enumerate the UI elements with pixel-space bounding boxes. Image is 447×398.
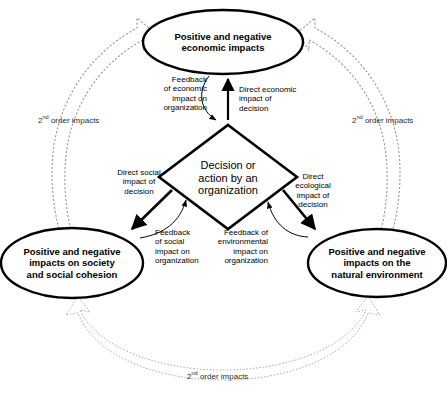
node-environment-line-1: Positive and negative bbox=[311, 246, 443, 258]
node-environment-label: Positive and negative impacts on the nat… bbox=[311, 242, 443, 284]
second-order-arrow-bottom bbox=[66, 296, 380, 380]
node-society-line-2: impacts on society bbox=[4, 257, 140, 269]
direct-ecological-line-3: impact of bbox=[285, 191, 341, 200]
direct-economic-line-2: impact of bbox=[239, 94, 311, 103]
direct-economic-line-3: decision bbox=[239, 104, 311, 113]
feedback-environmental-line-1: Feedback of bbox=[206, 228, 268, 237]
feedback-environmental-line-3: impact on bbox=[206, 247, 268, 256]
feedback-social-line-2: of social bbox=[155, 237, 207, 246]
second-order-bottom-text: order impacts bbox=[198, 372, 249, 381]
node-environment-line-2: impacts on the bbox=[311, 257, 443, 269]
node-decision-line-2: action by an bbox=[174, 172, 282, 185]
node-society-line-1: Positive and negative bbox=[4, 246, 140, 258]
node-decision-label: Decision or action by an organization bbox=[174, 157, 282, 199]
second-order-label-right: 2nd order impacts bbox=[352, 116, 413, 125]
feedback-economic-line-3: impact on bbox=[145, 94, 207, 103]
direct-ecological-line-4: decision bbox=[285, 200, 341, 209]
feedback-environmental-line-4: organization bbox=[206, 256, 268, 265]
node-society-line-3: and social cohesion bbox=[4, 269, 140, 281]
feedback-economic-line-1: Feedback bbox=[145, 75, 207, 84]
node-economic-label: Positive and negative economic impacts bbox=[143, 18, 303, 66]
edge-label-feedback-environmental: Feedback of environmental impact on orga… bbox=[206, 228, 268, 265]
direct-social-line-1: Direct social bbox=[106, 168, 172, 177]
node-decision-line-3: organization bbox=[174, 184, 282, 197]
node-society-label: Positive and negative impacts on society… bbox=[4, 242, 140, 284]
feedback-economic-line-4: organization bbox=[145, 103, 207, 112]
direct-social-line-3: decision bbox=[106, 187, 172, 196]
direct-social-line-2: impact of bbox=[106, 177, 172, 186]
edge-label-direct-ecological: Direct ecological impact of decision bbox=[285, 172, 341, 209]
edge-label-direct-social: Direct social impact of decision bbox=[106, 168, 172, 196]
direct-ecological-line-2: ecological bbox=[285, 181, 341, 190]
direct-ecological-line-1: Direct bbox=[285, 172, 341, 181]
node-environment-line-3: natural environment bbox=[311, 269, 443, 281]
feedback-social-line-1: Feedback bbox=[155, 228, 207, 237]
feedback-economic-line-2: of economic bbox=[145, 84, 207, 93]
second-order-label-left: 2nd order impacts bbox=[38, 116, 99, 125]
edge-label-feedback-economic: Feedback of economic impact on organizat… bbox=[145, 75, 207, 112]
impact-feedback-diagram: Positive and negative economic impacts P… bbox=[0, 0, 447, 398]
second-order-left-text: order impacts bbox=[49, 116, 100, 125]
feedback-environmental-line-2: environmental bbox=[206, 237, 268, 246]
feedback-social-line-4: organization bbox=[155, 256, 207, 265]
second-order-right-text: order impacts bbox=[363, 116, 414, 125]
feedback-social-line-3: impact on bbox=[155, 247, 207, 256]
node-decision-line-1: Decision or bbox=[174, 159, 282, 172]
node-economic-line-2: economic impacts bbox=[143, 42, 303, 54]
edge-label-feedback-social: Feedback of social impact on organizatio… bbox=[155, 228, 207, 265]
second-order-label-bottom: 2nd order impacts bbox=[187, 372, 248, 381]
edge-label-direct-economic: Direct economic impact of decision bbox=[239, 85, 311, 113]
node-economic-line-1: Positive and negative bbox=[143, 31, 303, 43]
direct-economic-line-1: Direct economic bbox=[239, 85, 311, 94]
